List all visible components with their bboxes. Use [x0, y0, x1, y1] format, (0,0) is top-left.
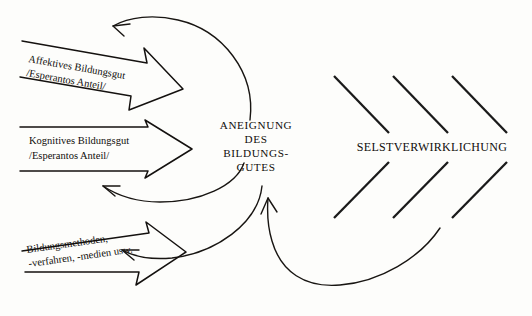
center-node-label: ANEIGNUNG DES BILDUNGS- GUTES — [220, 119, 293, 173]
top-feedback-arrowhead — [113, 24, 130, 36]
diagram-canvas: Affektives Bildungsgut /Esperantos Antei… — [0, 0, 532, 316]
input-arrow-affektives: Affektives Bildungsgut /Esperantos Antei… — [20, 41, 183, 110]
top-feedback-curve-path — [113, 17, 251, 120]
chevron-upper-1 — [334, 76, 389, 133]
right-node-label: SELSTVERWIRKLICHUNG — [340, 138, 520, 156]
chevron-lower-1 — [334, 162, 389, 218]
chevron-lower-3 — [452, 162, 507, 218]
return-curve-path — [268, 198, 440, 285]
arrow-outline-kognitives — [20, 120, 192, 178]
middle-feedback-curve — [103, 163, 244, 202]
chevron-upper-2 — [393, 76, 448, 133]
arrow-label-kognitives-line1: Kognitives Bildungsgut — [29, 135, 129, 146]
right-label-text: SELSTVERWIRKLICHUNG — [357, 140, 507, 154]
center-label-line2: DES — [245, 133, 268, 145]
input-arrow-bildungsmethoden: Bildungsmethoden, -verfahren, -medien us… — [22, 222, 186, 285]
chevron-lower-2 — [393, 162, 448, 218]
return-curve-arrowhead — [261, 198, 277, 214]
diagram-svg: Affektives Bildungsgut /Esperantos Antei… — [0, 0, 532, 316]
bottom-feedback-curve-path — [122, 186, 262, 259]
center-label-line1: ANEIGNUNG — [220, 119, 293, 131]
bottom-feedback-curve — [122, 186, 262, 260]
center-label-line4: GUTES — [236, 161, 275, 173]
arrow-label-kognitives-line2: /Esperantos Anteil/ — [29, 150, 109, 161]
top-feedback-curve — [113, 17, 251, 120]
chevron-upper-3 — [452, 76, 507, 133]
return-curve-to-center — [261, 198, 440, 285]
center-label-line3: BILDUNGS- — [223, 147, 289, 159]
middle-feedback-curve-path — [103, 163, 244, 202]
input-arrow-kognitives: Kognitives Bildungsgut /Esperantos Antei… — [20, 120, 192, 178]
